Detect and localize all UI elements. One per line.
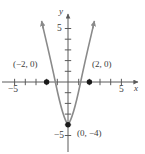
right-root-label: (2, 0) xyxy=(92,59,112,69)
curve-arrow-right xyxy=(93,21,95,28)
x-tick-label-5: 5 xyxy=(119,84,124,94)
point-right-root xyxy=(87,79,92,84)
y-tick-label-neg5: −5 xyxy=(54,130,64,140)
graph-figure: y x 5 −5 −5 5 (−2, 0) (2, 0) (0, −4) xyxy=(0,0,145,154)
x-axis-label: x xyxy=(134,83,138,93)
x-tick-label-neg5: −5 xyxy=(8,84,18,94)
vertex-label: (0, −4) xyxy=(77,128,102,138)
coordinate-plane xyxy=(0,0,145,154)
y-axis-label: y xyxy=(59,6,63,16)
point-vertex xyxy=(65,122,70,127)
curve-arrow-left xyxy=(42,21,44,28)
x-axis xyxy=(2,79,138,85)
y-tick-label-5: 5 xyxy=(57,23,62,33)
left-root-label: (−2, 0) xyxy=(13,59,38,69)
point-left-root xyxy=(44,79,49,84)
y-axis xyxy=(65,14,71,152)
